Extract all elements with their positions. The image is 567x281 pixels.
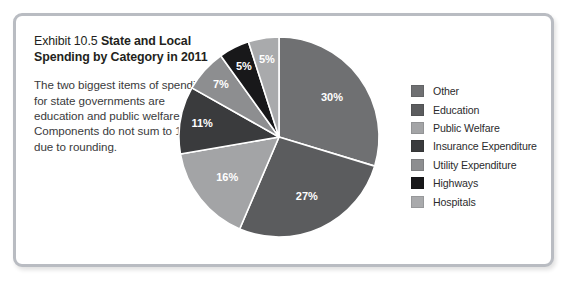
legend-item-label: Hospitals [433, 196, 476, 208]
legend-item[interactable]: Other [411, 82, 561, 100]
legend-item[interactable]: Highways [411, 174, 561, 192]
legend-item-label: Highways [433, 177, 478, 189]
exhibit-number-label: Exhibit 10.5 [34, 34, 98, 48]
legend-item[interactable]: Insurance Expenditure [411, 137, 561, 155]
legend-item-label: Insurance Expenditure [433, 140, 537, 152]
legend-item-label: Public Welfare [433, 122, 500, 134]
pie-slice-label: 5% [259, 53, 275, 65]
legend-item-label: Other [433, 85, 459, 97]
legend-item[interactable]: Public Welfare [411, 119, 561, 137]
legend-item-label: Education [433, 104, 479, 116]
legend-item[interactable]: Education [411, 100, 561, 118]
pie-slice-group [179, 37, 379, 237]
pie-slice-label: 5% [236, 60, 252, 72]
pie-slice-label: 27% [296, 190, 318, 202]
legend-swatch-icon [411, 177, 424, 189]
legend-item-label: Utility Expenditure [433, 159, 516, 171]
pie-slice-label: 7% [213, 78, 229, 90]
legend-item[interactable]: Utility Expenditure [411, 156, 561, 174]
legend-swatch-icon [411, 122, 424, 134]
pie-slice-label: 11% [191, 117, 213, 129]
exhibit-panel: Exhibit 10.5 State and Local Spending by… [13, 13, 554, 267]
pie-chart: 30%27%16%11%7%5%5% [180, 25, 376, 240]
panel-inner: Exhibit 10.5 State and Local Spending by… [16, 16, 551, 264]
legend-swatch-icon [411, 159, 424, 171]
legend-swatch-icon [411, 104, 424, 116]
legend-swatch-icon [411, 140, 424, 152]
legend-swatch-icon [411, 196, 424, 208]
pie-slice-label: 16% [216, 171, 238, 183]
pie-slice-label: 30% [321, 91, 343, 103]
pie-chart-svg: 30%27%16%11%7%5%5% [180, 25, 376, 240]
legend-item[interactable]: Hospitals [411, 192, 561, 210]
legend-swatch-icon [411, 85, 424, 97]
chart-legend: OtherEducationPublic WelfareInsurance Ex… [411, 82, 561, 211]
